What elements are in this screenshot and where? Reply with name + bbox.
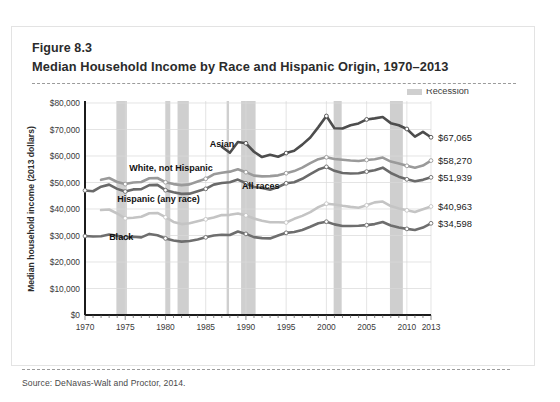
end-value-label-0: $67,065	[438, 132, 472, 143]
legend-recession-swatch	[407, 89, 422, 95]
y-tick-label-5: $50,000	[50, 178, 81, 188]
series-point	[164, 180, 168, 184]
y-tick-label-8: $80,000	[50, 98, 81, 108]
y-axis-title: Median household income (2013 dollars)	[26, 126, 36, 292]
series-point	[123, 190, 127, 194]
x-tick-label-0: 1970	[76, 322, 95, 332]
series-point	[204, 235, 208, 239]
series-point	[365, 118, 369, 122]
dashed-divider-top	[32, 83, 516, 84]
series-point	[429, 135, 433, 139]
series-point	[429, 175, 433, 179]
figure-title: Median Household Income by Race and Hisp…	[32, 59, 449, 74]
series-point	[365, 158, 369, 162]
series-point	[123, 182, 127, 186]
x-tick-label-5: 1995	[277, 322, 296, 332]
series-point	[429, 159, 433, 163]
series-point	[324, 202, 328, 206]
series-point	[204, 187, 208, 191]
series-point	[164, 215, 168, 219]
series-point	[204, 217, 208, 221]
x-tick-label-1: 1975	[116, 322, 135, 332]
series-point	[284, 171, 288, 175]
series-point	[429, 221, 433, 225]
series-point	[244, 232, 248, 236]
y-tick-label-3: $30,000	[50, 231, 81, 241]
series-point	[244, 141, 248, 145]
series-point	[324, 220, 328, 224]
series-label-0: Asian	[210, 139, 235, 149]
x-tick-label-9: 2013	[422, 322, 441, 332]
chart-svg: $0$10,000$20,000$30,000$40,000$50,000$60…	[12, 89, 536, 367]
series-point	[429, 205, 433, 209]
figure-number: Figure 8.3	[32, 41, 92, 55]
series-point	[244, 170, 248, 174]
series-line-hispanic-any-race	[101, 202, 431, 225]
end-value-label-4: $34,598	[438, 218, 472, 229]
y-tick-label-2: $20,000	[50, 257, 81, 267]
series-point	[405, 227, 409, 231]
series-point	[365, 170, 369, 174]
series-label-1: White, not Hispanic	[129, 163, 213, 173]
series-point	[405, 127, 409, 131]
series-point	[83, 234, 87, 238]
source-note: Source: DeNavas-Walt and Proctor, 2014.	[22, 378, 186, 388]
dashed-divider-bottom	[22, 369, 510, 370]
series-point	[284, 231, 288, 235]
series-point	[204, 177, 208, 181]
y-tick-label-7: $70,000	[50, 125, 81, 135]
legend-recession-label: Recession	[426, 89, 469, 96]
y-tick-label-0: $0	[71, 310, 81, 320]
series-point	[405, 177, 409, 181]
series-point	[405, 164, 409, 168]
series-point	[244, 213, 248, 217]
series-label-2: All races	[242, 181, 280, 191]
series-point	[324, 155, 328, 159]
series-point	[365, 223, 369, 227]
series-point	[324, 165, 328, 169]
series-point	[284, 221, 288, 225]
series-point	[83, 189, 87, 193]
recession-band-1	[165, 101, 170, 315]
x-tick-label-8: 2010	[398, 322, 417, 332]
series-line-black	[85, 222, 431, 242]
x-tick-label-7: 2005	[357, 322, 376, 332]
series-point	[123, 216, 127, 220]
recession-band-4	[241, 101, 255, 315]
series-label-4: Black	[109, 232, 134, 242]
series-point	[405, 208, 409, 212]
x-tick-label-3: 1985	[196, 322, 215, 332]
end-value-label-3: $40,963	[438, 201, 472, 212]
series-point	[164, 237, 168, 241]
series-point	[284, 151, 288, 155]
recession-band-5	[334, 101, 342, 315]
x-tick-label-6: 2000	[317, 322, 336, 332]
figure-card: Figure 8.3 Median Household Income by Ra…	[11, 26, 535, 366]
x-tick-label-4: 1990	[237, 322, 256, 332]
y-tick-label-4: $40,000	[50, 204, 81, 214]
end-value-label-1: $58,270	[438, 155, 472, 166]
series-point	[324, 114, 328, 118]
series-point	[284, 181, 288, 185]
end-value-label-2: $51,939	[438, 172, 472, 183]
x-tick-label-2: 1980	[156, 322, 175, 332]
recession-band-3	[227, 101, 229, 315]
y-tick-label-6: $60,000	[50, 151, 81, 161]
series-point	[365, 203, 369, 207]
recession-band-2	[178, 101, 189, 315]
series-point	[164, 188, 168, 192]
series-label-3: Hispanic (any race)	[117, 194, 200, 204]
line-chart: $0$10,000$20,000$30,000$40,000$50,000$60…	[12, 89, 536, 367]
y-tick-label-1: $10,000	[50, 284, 81, 294]
